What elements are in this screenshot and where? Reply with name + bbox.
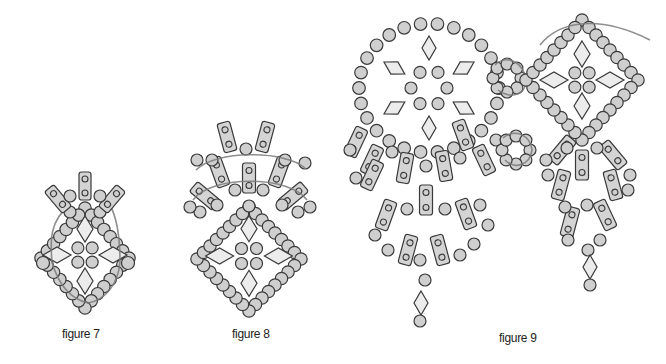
round-bead [462, 29, 475, 42]
round-bead [292, 206, 304, 218]
round-bead [594, 234, 606, 246]
bar-hole [82, 190, 88, 196]
rhombus-bead [77, 268, 93, 294]
round-bead [454, 152, 466, 164]
two-hole-bar-bead [255, 121, 275, 153]
figure-8-caption: figure 8 [232, 327, 270, 341]
round-bead [581, 199, 593, 211]
round-bead [419, 274, 431, 286]
rhombus-body [574, 41, 590, 67]
round-bead [454, 249, 466, 261]
round-bead [475, 124, 488, 137]
bar-hole [246, 168, 252, 174]
round-bead [432, 66, 444, 78]
rhombus-bead [450, 56, 478, 80]
round-bead [386, 146, 398, 158]
round-bead [370, 39, 383, 52]
round-bead [191, 154, 203, 166]
figure-9-drawing [344, 14, 650, 327]
bar-hole [423, 205, 429, 211]
rhombus-body [380, 56, 408, 80]
bar-hole [579, 170, 585, 176]
figure-7-caption: figure 7 [62, 327, 100, 341]
round-bead [414, 66, 426, 78]
two-hole-bar-bead [472, 144, 496, 177]
round-bead [482, 219, 494, 231]
round-bead [86, 242, 98, 254]
round-bead [414, 254, 426, 266]
round-bead [439, 203, 451, 215]
rhombus-body [422, 36, 436, 60]
round-bead [184, 201, 196, 213]
two-hole-bar-bead [430, 234, 450, 266]
round-bead [370, 124, 383, 137]
bar-hole [442, 170, 449, 177]
round-bead [344, 144, 356, 156]
bar-body [435, 150, 453, 182]
bar-body [593, 199, 617, 232]
round-bead [414, 146, 427, 159]
round-bead [94, 190, 106, 202]
two-hole-bar-bead [217, 121, 237, 153]
round-bead [569, 81, 581, 93]
two-hole-bar-bead [420, 185, 433, 215]
bar-hole [246, 183, 252, 189]
round-bead [276, 199, 288, 211]
round-bead [420, 160, 432, 172]
rhombus-bead [574, 41, 590, 67]
round-bead [431, 18, 444, 31]
bar-hole [403, 157, 410, 164]
two-hole-bar-bead [598, 139, 627, 170]
bar-hole [82, 176, 88, 182]
round-bead [485, 112, 498, 125]
round-bead [414, 18, 427, 31]
bar-body [430, 234, 450, 266]
round-bead [441, 82, 453, 94]
round-bead [383, 135, 396, 148]
round-bead [251, 258, 263, 270]
round-bead [355, 66, 368, 79]
rhombus-bead [540, 72, 568, 88]
round-bead [240, 143, 252, 155]
round-bead [229, 184, 241, 196]
figure-7-drawing [35, 172, 135, 314]
round-bead [569, 21, 581, 33]
two-hole-bar-bead [593, 199, 617, 232]
bar-body [598, 139, 627, 170]
beading-diagram [0, 0, 666, 364]
round-bead [122, 257, 135, 270]
round-bead [583, 67, 595, 79]
round-bead [569, 67, 581, 79]
two-hole-bar-bead [375, 199, 397, 232]
rhombus-bead [241, 270, 257, 296]
round-bead [542, 169, 554, 181]
bar-body [217, 121, 237, 153]
round-bead [584, 279, 596, 291]
bar-hole [579, 155, 585, 161]
rhombus-bead [414, 291, 428, 315]
rhombus-bead [380, 56, 408, 80]
rhombus-body [380, 96, 408, 120]
bar-body [603, 169, 623, 201]
round-bead [622, 184, 634, 196]
round-bead [582, 244, 594, 256]
round-bead [72, 256, 84, 268]
round-bead [257, 184, 269, 196]
round-bead [414, 315, 426, 327]
two-hole-bar-bead [603, 169, 623, 201]
bar-body [375, 199, 397, 232]
two-hole-bar-bead [396, 152, 414, 184]
bar-hole [423, 190, 429, 196]
bar-body [396, 152, 414, 184]
round-bead [398, 21, 411, 34]
round-bead [405, 82, 417, 94]
two-hole-bar-bead [243, 163, 256, 193]
rhombus-body [540, 72, 568, 88]
round-bead [624, 169, 636, 181]
rhombus-bead [574, 93, 590, 119]
round-bead [591, 142, 603, 154]
rhombus-bead [380, 96, 408, 120]
rhombus-body [583, 255, 597, 279]
rhombus-body [574, 93, 590, 119]
round-bead [304, 201, 316, 213]
